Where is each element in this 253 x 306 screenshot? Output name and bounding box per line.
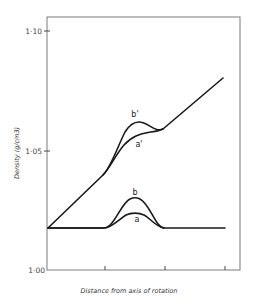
label-b-prime: b': [131, 110, 138, 119]
curve-a-prime: [48, 78, 223, 228]
label-b: b: [132, 188, 137, 197]
plot-frame: [47, 17, 240, 270]
y-tick-label-1-00: 1·00: [28, 266, 45, 275]
x-axis-label: Distance from axis of rotation: [81, 287, 178, 295]
y-tick-label-1-05: 1·05: [25, 147, 42, 156]
y-axis-label: Density (g/cm3): [13, 127, 21, 179]
label-a-prime: a': [135, 140, 142, 149]
density-chart: 1·10 1·05 1·00 b a b' a' Distance from a…: [0, 0, 253, 306]
curve-b-prime: [103, 122, 163, 175]
y-tick-label-1-10: 1·10: [25, 27, 42, 36]
curve-b: [48, 198, 164, 228]
label-a: a: [135, 215, 140, 224]
